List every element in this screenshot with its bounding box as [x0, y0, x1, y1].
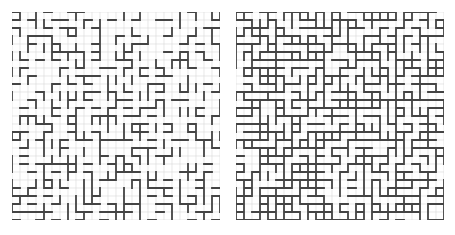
right-grid-panel — [236, 12, 444, 220]
left-grid-panel — [12, 12, 220, 220]
right-maze-grid — [236, 12, 444, 220]
left-maze-grid — [12, 12, 220, 220]
